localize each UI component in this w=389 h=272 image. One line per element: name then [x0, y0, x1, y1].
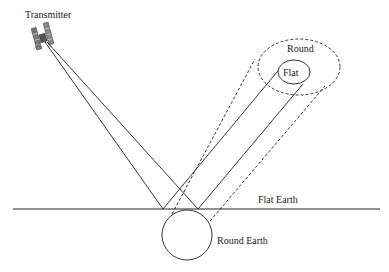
transmitter-label: Transmitter [25, 9, 72, 20]
flat-footprint-label: Flat [283, 67, 299, 78]
round-footprint-label: Round [287, 43, 314, 54]
flat-reflected-rays [163, 66, 303, 209]
incident-rays [45, 42, 198, 209]
round-earth-circle [162, 210, 212, 260]
round-earth-label: Round Earth [217, 235, 268, 246]
flat-earth-label: Flat Earth [258, 194, 298, 205]
reflection-diagram: Transmitter Round Flat Flat Earth Round … [0, 0, 389, 272]
round-reflected-rays [172, 59, 325, 221]
